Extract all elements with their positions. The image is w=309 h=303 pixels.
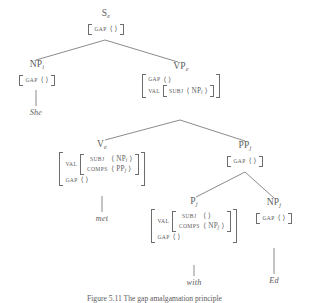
avm-attribute: SUBJ (178, 213, 200, 220)
avm-attribute: COMPS (86, 166, 108, 173)
node-p-avm: VAL SUBJ ⟨ ⟩ COMPS ⟨ NPj ⟩ (151, 209, 236, 243)
avm-body: SUBJ ⟨ NPi ⟩ COMPS ⟨ PPj ⟩ (84, 154, 134, 175)
avm-row: COMPS ⟨ NPj ⟩ (178, 222, 224, 230)
node-np-object-avm: GAP ⟨ ⟩ (256, 213, 291, 224)
avm-nested: SUBJ ⟨ ⟩ COMPS ⟨ NPj ⟩ (172, 211, 230, 232)
avm-value: ⟨ ⟩ (163, 76, 171, 84)
avm-value: ⟨ NPj ⟩ (203, 222, 224, 230)
avm-value: ⟨ ⟩ (41, 76, 49, 84)
node-s-index: e (107, 12, 110, 19)
avm-row: GAP ⟨ ⟩ (65, 176, 138, 184)
edge-s-np (36, 40, 105, 60)
avm-bracket-right (233, 209, 237, 243)
edge-pp-np (245, 172, 274, 198)
avm-attribute: GAP (262, 215, 274, 222)
node-v-avm: VAL SUBJ ⟨ NPi ⟩ COMPS ⟨ PPj ⟩ (59, 152, 144, 186)
avm-attribute: VAL (65, 161, 77, 168)
avm-value: ⟨ ⟩ (249, 157, 257, 165)
avm-row: GAP ⟨ ⟩ (94, 25, 117, 33)
avm-bracket-right (216, 74, 220, 98)
avm-row: GAP ⟨ ⟩ (25, 76, 48, 84)
avm-value: ⟨ ⟩ (110, 25, 118, 33)
node-vp-index: e (186, 65, 189, 72)
avm-body: GAP ⟨ ⟩ (260, 213, 287, 224)
avm-value-tail: ⟩ (220, 222, 225, 230)
avm-attribute: VAL (157, 218, 169, 225)
avm-nested: SUBJ ⟨ NPi ⟩ (163, 85, 214, 96)
avm-bracket-right (141, 152, 145, 186)
avm-attribute: GAP (25, 77, 37, 84)
node-v-index: e (104, 143, 107, 150)
avm-attribute: COMPS (178, 223, 200, 230)
node-pp-index: j (250, 144, 252, 151)
avm-attribute: SUBJ (86, 156, 108, 163)
node-v: Ve VAL SUBJ ⟨ NPi ⟩ (48, 140, 156, 190)
avm-value: ⟨ NPi ⟩ (111, 155, 132, 163)
node-np-subject-avm: GAP ⟨ ⟩ (19, 75, 54, 86)
avm-row: VAL SUBJ ⟨ NPi ⟩ (148, 85, 214, 96)
figure-caption: Figure 5.11 The gap amalgamation princip… (0, 294, 309, 303)
node-vp-label: VP (173, 61, 186, 71)
avm-body: GAP ⟨ ⟩ (92, 24, 119, 35)
node-np-object-label: NP (267, 197, 280, 207)
avm-body: VAL SUBJ ⟨ ⟩ COMPS ⟨ NPj ⟩ (155, 209, 232, 243)
avm-attribute: GAP (233, 158, 245, 165)
node-np-object-category: NPj (243, 198, 305, 208)
avm-row: SUBJ ⟨ NPi ⟩ (169, 87, 208, 95)
edge-pp-p (196, 172, 245, 197)
avm-value-tail: ⟩ (126, 165, 131, 173)
avm-value-head: ⟨ NP (203, 222, 218, 230)
node-pp-category: PPj (215, 141, 275, 151)
terminal-with: with (174, 279, 214, 287)
node-np-object: NPj GAP ⟨ ⟩ (243, 198, 305, 228)
avm-value: ⟨ ⟩ (173, 233, 181, 241)
avm-value-head: ⟨ PP (111, 165, 124, 173)
avm-nested: SUBJ ⟨ NPi ⟩ COMPS ⟨ PPj ⟩ (80, 154, 138, 175)
avm-row: COMPS ⟨ PPj ⟩ (86, 165, 132, 173)
avm-row: VAL SUBJ ⟨ NPi ⟩ COMPS ⟨ PPj ⟩ (65, 154, 138, 175)
avm-row: GAP ⟨ ⟩ (233, 157, 256, 165)
avm-value-head: ⟨ NP (111, 155, 126, 163)
node-s: Se GAP ⟨ ⟩ (76, 9, 136, 39)
node-v-category: Ve (48, 140, 156, 150)
avm-bracket-right (259, 156, 263, 167)
avm-value-head: ⟨ ⟩ (203, 212, 211, 220)
edge-s-vp (105, 40, 178, 62)
avm-row: VAL SUBJ ⟨ ⟩ COMPS ⟨ NPj ⟩ (157, 211, 230, 232)
edge-vp-v (105, 120, 180, 140)
avm-body: SUBJ ⟨ ⟩ COMPS ⟨ NPj ⟩ (176, 211, 226, 232)
node-pp-avm: GAP ⟨ ⟩ (227, 156, 262, 167)
node-vp-avm: GAP ⟨ ⟩ VAL SUBJ ⟨ NPi ⟩ (142, 74, 220, 98)
avm-attribute: VAL (148, 88, 160, 95)
avm-bracket-right (51, 75, 55, 86)
edge-vp-pp (180, 120, 245, 141)
node-np-subject-category: NPi (6, 60, 68, 70)
avm-bracket-right (120, 24, 124, 35)
avm-body: GAP ⟨ ⟩ VAL SUBJ ⟨ NPi ⟩ (146, 74, 216, 98)
avm-row: SUBJ ⟨ ⟩ (178, 212, 224, 220)
avm-value: ⟨ ⟩ (278, 214, 286, 222)
avm-attribute: SUBJ (169, 88, 183, 95)
avm-value: ⟨ NPi ⟩ (186, 87, 207, 95)
node-s-avm: GAP ⟨ ⟩ (88, 24, 123, 35)
node-vp-category: VPe (129, 62, 233, 72)
node-np-object-index: j (279, 201, 281, 208)
terminal-she: She (16, 109, 56, 117)
node-p-category: Pj (141, 197, 247, 207)
avm-value: ⟨ ⟩ (81, 176, 89, 184)
avm-bracket-right (288, 213, 292, 224)
avm-body: GAP ⟨ ⟩ (231, 156, 258, 167)
avm-row: GAP ⟨ ⟩ (148, 76, 214, 84)
avm-bracket-right (135, 154, 139, 175)
avm-value: ⟨ ⟩ (203, 212, 211, 220)
node-pp: PPj GAP ⟨ ⟩ (215, 141, 275, 171)
avm-value-tail: ⟩ (128, 155, 133, 163)
node-vp: VPe GAP ⟨ ⟩ VAL SU (129, 62, 233, 102)
avm-row: GAP ⟨ ⟩ (262, 214, 285, 222)
avm-attribute: GAP (148, 76, 160, 83)
avm-bracket-right (210, 85, 214, 96)
avm-value-head: ⟨ NP (186, 87, 201, 95)
node-s-category: Se (76, 9, 136, 19)
node-p: Pj VAL SUBJ ⟨ ⟩ (141, 197, 247, 247)
